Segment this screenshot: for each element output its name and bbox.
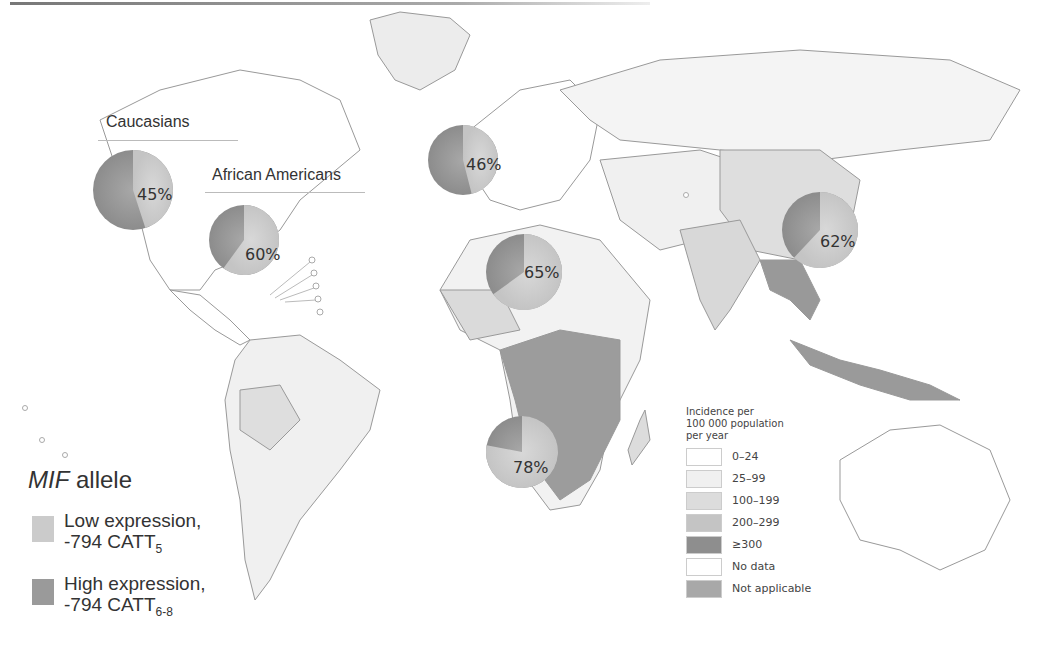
pie-west-africa-pct: 65% [524, 263, 560, 282]
pie-east-asia-pct: 62% [820, 232, 856, 251]
incidence-swatch [686, 514, 722, 532]
incidence-label: No data [732, 561, 775, 573]
mif-legend-title: MIF allele [28, 466, 132, 494]
incidence-swatch [686, 558, 722, 576]
incidence-legend-item: 0–24 [686, 446, 811, 468]
incidence-swatch [686, 580, 722, 598]
south-america [225, 335, 380, 600]
low-expression-swatch [32, 516, 54, 542]
southeast-asia [760, 260, 820, 320]
incidence-legend-item: No data [686, 556, 811, 578]
incidence-label: 0–24 [732, 451, 759, 463]
label-caucasians: Caucasians [106, 113, 190, 131]
incidence-legend-item: 200–299 [686, 512, 811, 534]
incidence-legend-item: ≥300 [686, 534, 811, 556]
mif-legend-low: Low expression,-794 CATT5 [32, 510, 201, 560]
incidence-label: 25–99 [732, 473, 766, 485]
incidence-legend-item: Not applicable [686, 578, 811, 600]
incidence-swatch [686, 448, 722, 466]
high-expression-swatch [32, 579, 54, 605]
incidence-label: 200–299 [732, 517, 780, 529]
incidence-label: Not applicable [732, 583, 811, 595]
australia [840, 425, 1010, 570]
incidence-label: 100–199 [732, 495, 780, 507]
label-underline [205, 192, 365, 193]
pie-african-americans-pct: 60% [245, 245, 281, 264]
india [680, 220, 760, 330]
madagascar [628, 410, 650, 465]
label-underline [98, 140, 238, 141]
incidence-legend-item: 25–99 [686, 468, 811, 490]
label-african-americans: African Americans [212, 166, 341, 184]
russia [560, 50, 1020, 160]
central-america [170, 290, 250, 345]
indonesia [790, 340, 960, 400]
incidence-legend-item: 100–199 [686, 490, 811, 512]
incidence-swatch [686, 492, 722, 510]
mif-legend-high: High expression,-794 CATT6-8 [32, 573, 206, 623]
pie-caucasians-pct: 45% [137, 185, 173, 204]
pie-europe-pct: 46% [466, 155, 502, 174]
incidence-swatch [686, 536, 722, 554]
incidence-swatch [686, 470, 722, 488]
incidence-legend: Incidence per 100 000 population per yea… [686, 406, 811, 600]
incidence-label: ≥300 [732, 539, 762, 551]
greenland [370, 12, 470, 90]
pie-southern-africa-pct: 78% [513, 458, 549, 477]
